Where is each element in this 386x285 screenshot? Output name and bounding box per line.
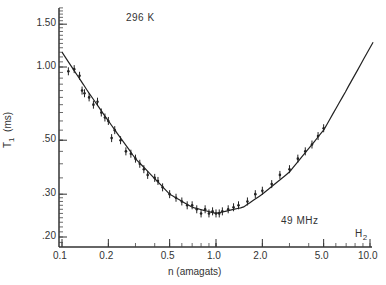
gas-subscript: 2: [363, 233, 368, 242]
data-point: [153, 177, 156, 180]
gas-annotation: H2: [355, 228, 368, 242]
data-point: [161, 186, 164, 189]
x-tick-label: 2.0: [253, 250, 267, 261]
data-point: [215, 212, 218, 215]
data-point: [186, 204, 189, 207]
data-point: [78, 75, 81, 78]
data-point: [138, 162, 141, 165]
data-point: [232, 206, 235, 209]
y-tick-label: 1.00: [37, 60, 56, 71]
y-tick-label: .50: [42, 133, 56, 144]
data-point: [175, 196, 178, 199]
x-tick-label: 0.5: [161, 250, 175, 261]
y-label-unit: (ms): [2, 112, 13, 132]
data-point: [107, 120, 110, 123]
data-point: [157, 180, 160, 183]
data-point: [246, 200, 249, 203]
y-label-subscript: 1: [7, 137, 16, 141]
data-point: [195, 208, 198, 211]
data-point: [125, 150, 128, 153]
data-point: [317, 135, 320, 138]
data-point: [270, 183, 273, 186]
data-point: [119, 139, 122, 142]
data-point: [221, 210, 224, 213]
data-point: [254, 193, 257, 196]
chart-plot-area: [0, 0, 386, 285]
frequency-annotation: 49 MHz: [281, 215, 318, 226]
data-point: [67, 70, 70, 73]
x-tick-label: 0.2: [99, 250, 113, 261]
data-point: [279, 174, 282, 177]
y-axis-label: T1 (ms): [2, 112, 16, 148]
x-tick-label: 5.0: [315, 250, 329, 261]
gas-symbol: H: [355, 228, 363, 239]
data-point: [96, 100, 99, 103]
x-tick-label: 0.1: [53, 250, 67, 261]
y-tick-label: .20: [42, 230, 56, 241]
y-tick-label: .30: [42, 187, 56, 198]
data-point: [130, 152, 133, 155]
data-point: [227, 208, 230, 211]
data-point: [181, 200, 184, 203]
y-label-symbol: T: [2, 142, 13, 148]
data-point: [168, 193, 171, 196]
data-point: [191, 204, 194, 207]
data-point: [146, 174, 149, 177]
data-point: [143, 168, 146, 171]
data-point: [113, 129, 116, 132]
data-point: [134, 157, 137, 160]
data-point: [237, 204, 240, 207]
data-point: [104, 116, 107, 119]
data-point: [208, 212, 211, 215]
data-point: [218, 212, 221, 215]
data-point: [322, 127, 325, 130]
data-point: [100, 111, 103, 114]
x-axis-label: n (amagats): [168, 266, 221, 277]
data-point: [311, 143, 314, 146]
data-point: [73, 68, 76, 71]
data-point: [297, 157, 300, 160]
data-point: [110, 137, 113, 140]
data-point: [304, 150, 307, 153]
data-point: [81, 89, 84, 92]
fit-curve: [62, 42, 373, 213]
data-point: [83, 92, 86, 95]
data-point: [204, 208, 207, 211]
data-point: [261, 189, 264, 192]
y-tick-label: 1.50: [37, 17, 56, 28]
x-tick-label: 10.0: [358, 250, 377, 261]
x-tick-label: 1.0: [207, 250, 221, 261]
data-point: [88, 96, 91, 99]
data-point: [92, 103, 95, 106]
temperature-annotation: 296 K: [126, 12, 155, 23]
data-point: [200, 212, 203, 215]
data-point: [211, 210, 214, 213]
data-point: [288, 168, 291, 171]
